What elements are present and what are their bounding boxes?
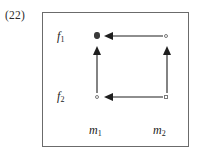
node-f1-m1 [94, 32, 100, 39]
arrow-bottom-horizontal-head [104, 93, 113, 101]
figure-root: (22) f1 f2 m1 m2 [0, 0, 199, 155]
column-label-m1-subscript: 1 [98, 129, 102, 138]
column-label-m2: m2 [153, 123, 166, 138]
row-label-f2: f2 [57, 89, 65, 104]
arrow-top-horizontal [101, 29, 165, 43]
arrow-left-vertical [90, 43, 104, 95]
column-label-m1-base: m [89, 123, 98, 137]
figure-number-label: (22) [5, 9, 25, 21]
arrow-right-vertical [160, 43, 174, 95]
column-label-m1: m1 [89, 123, 102, 138]
column-label-m2-base: m [153, 123, 162, 137]
arrow-top-horizontal-head [104, 32, 113, 40]
arrow-left-vertical-head [93, 46, 101, 55]
row-label-f1-subscript: 1 [61, 35, 65, 44]
row-label-f1-base: f [57, 29, 60, 43]
arrow-right-vertical-head [163, 46, 171, 55]
diagram-frame: f1 f2 m1 m2 [42, 12, 189, 147]
arrow-bottom-horizontal [101, 90, 165, 104]
row-label-f2-base: f [57, 89, 60, 103]
row-label-f2-subscript: 2 [61, 95, 65, 104]
node-f2-m1 [95, 95, 99, 99]
column-label-m2-subscript: 2 [162, 129, 166, 138]
row-label-f1: f1 [57, 29, 65, 44]
